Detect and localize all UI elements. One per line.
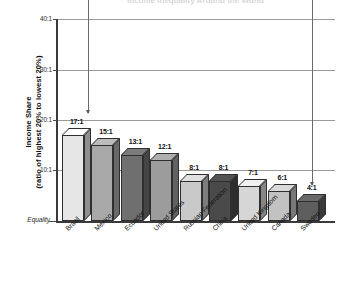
tickmark-equality: [49, 221, 57, 222]
ytick-label-20: 20:1: [18, 116, 52, 123]
ytick-label-40: 40:1: [18, 15, 52, 22]
bar-value-label: 6:1: [265, 174, 300, 181]
bar-value-label: 17:1: [59, 118, 94, 125]
bar-mexico: [91, 138, 120, 221]
bar-side-face: [231, 174, 238, 221]
y-axis-line: [56, 19, 58, 223]
bar-brazil: [62, 128, 91, 221]
ytick-label-10: 10:1: [18, 166, 52, 173]
chart-title: Income Inequality Around the World: [56, 0, 335, 5]
right-pointer-arrow-icon: [312, 0, 313, 185]
gridline-20: [56, 120, 335, 121]
bar-side-face: [113, 138, 120, 221]
tickmark-40: [53, 19, 57, 20]
ytick-label-30: 30:1: [18, 66, 52, 73]
ytick-label-equality: Equality: [10, 216, 50, 223]
tickmark-10: [53, 170, 57, 171]
gridline-30: [56, 70, 335, 71]
bar-side-face: [319, 194, 326, 221]
tickmark-20: [53, 120, 57, 121]
tickmark-30: [53, 70, 57, 71]
bar-side-face: [143, 148, 150, 221]
gridline-40: [56, 19, 335, 20]
bar-side-face: [84, 128, 91, 221]
bar-value-label: 4:1: [294, 184, 329, 191]
bar-ecuador: [121, 148, 150, 221]
income-share-bar-chart: Income Inequality Around the World Incom…: [0, 0, 344, 306]
bar-value-label: 15:1: [88, 128, 123, 135]
bar-value-label: 12:1: [147, 143, 182, 150]
left-pointer-arrow-icon: [88, 0, 89, 113]
bar-front-face: [91, 145, 113, 221]
bar-front-face: [62, 135, 84, 221]
